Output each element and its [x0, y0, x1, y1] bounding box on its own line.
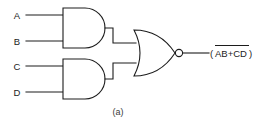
nor-inversion-bubble-icon [175, 49, 182, 56]
input-label-c: C [14, 61, 21, 72]
and-gate-1 [63, 8, 105, 48]
output-close-paren: ) [249, 48, 252, 59]
wire-and2-to-nor [105, 63, 136, 79]
input-label-d: D [14, 87, 21, 98]
circuit-diagram: A B C D ( AB+CD ) (a) [0, 0, 260, 122]
output-open-paren: ( [210, 48, 214, 59]
input-label-b: B [14, 36, 20, 47]
output-label: AB+CD [215, 48, 247, 59]
and-gate-2 [63, 59, 105, 99]
output-expression: ( AB+CD ) [210, 46, 252, 59]
logic-circuit-figure: A B C D ( AB+CD ) (a) [0, 0, 260, 122]
input-label-a: A [14, 10, 21, 21]
figure-caption: (a) [113, 107, 124, 117]
nor-gate-1 [134, 30, 175, 76]
wire-and1-to-nor [105, 28, 136, 43]
